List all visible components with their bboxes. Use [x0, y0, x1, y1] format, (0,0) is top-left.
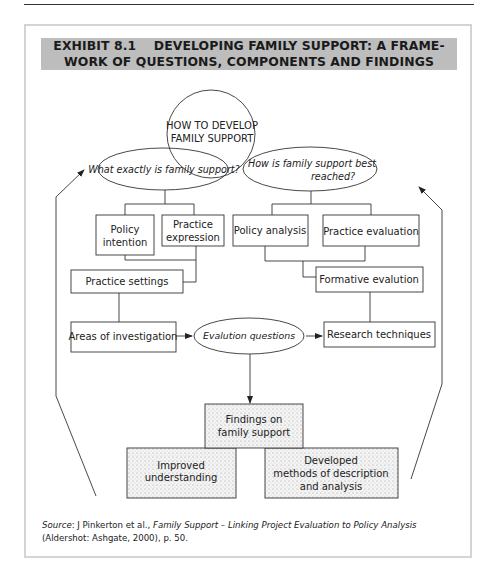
source-label: Source: [42, 520, 72, 530]
areas-of-investigation-text: Areas of investigation: [69, 331, 178, 342]
evalution-questions-text: Evalution questions: [203, 330, 295, 341]
findings-line1: Findings on: [226, 414, 283, 425]
right-question-line2: reached?: [311, 171, 355, 182]
policy-intention-line2: intention: [103, 237, 148, 248]
right-question-ellipse: [243, 147, 377, 191]
policy-intention-box: [96, 215, 154, 255]
framework-diagram: HOW TO DEVELOP FAMILY SUPPORT What exact…: [0, 0, 498, 580]
findings-box: [205, 404, 303, 448]
policy-intention-line1: Policy: [111, 224, 140, 235]
research-techniques-text: Research techniques: [327, 329, 431, 340]
source-citation: Source: J Pinkerton et al., Family Suppo…: [42, 519, 460, 545]
improved-understanding-line1: Improved: [157, 460, 204, 471]
findings-line2: family support: [218, 427, 291, 438]
developed-methods-line3: and analysis: [300, 481, 362, 492]
left-question-text: What exactly is family support?: [88, 164, 239, 175]
practice-evaluation-text: Practice evaluation: [323, 226, 419, 237]
center-circle-line2: FAMILY SUPPORT: [171, 133, 255, 144]
developed-methods-line1: Developed: [304, 455, 358, 466]
source-title: Family Support – Linking Project Evaluat…: [153, 520, 417, 530]
center-circle-line1: HOW TO DEVELOP: [166, 120, 258, 131]
developed-methods-line2: methods of description: [273, 468, 388, 479]
practice-expression-line2: expression: [166, 232, 220, 243]
right-question-line1: How is family support best: [248, 158, 377, 169]
practice-expression-line1: Practice: [173, 219, 213, 230]
practice-settings-text: Practice settings: [86, 276, 169, 287]
source-author: : J Pinkerton et al.,: [72, 520, 153, 530]
improved-understanding-line2: understanding: [145, 472, 218, 483]
policy-analysis-text: Policy analysis: [234, 225, 306, 236]
source-publication: (Aldershot: Ashgate, 2000), p. 50.: [42, 533, 188, 543]
formative-evalution-text: Formative evalution: [319, 274, 419, 285]
